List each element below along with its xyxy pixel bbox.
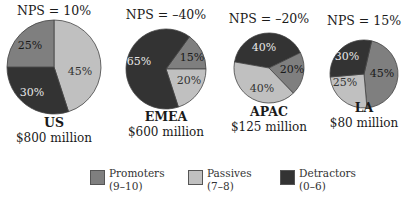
legend-range-promoters: (9–10) [109, 180, 165, 193]
legend-label-passives: Passives [207, 167, 252, 180]
nps-title: NPS = –20% [229, 11, 309, 26]
slice-label-passives: 45% [68, 65, 92, 78]
slice-label-promoters: 25% [18, 39, 42, 52]
legend-range-detractors: (0–6) [299, 180, 356, 193]
legend-range-passives: (7–8) [207, 180, 252, 193]
passives-swatch [188, 170, 203, 185]
legend-item-detractors: Detractors (0–6) [280, 167, 356, 192]
detractors-swatch [280, 170, 295, 185]
slice-label-passives: 40% [250, 82, 274, 95]
region-name: APAC [249, 104, 288, 119]
nps-title: NPS = 15% [327, 13, 401, 28]
legend-label-detractors: Detractors [299, 167, 356, 180]
region-name: LA [355, 100, 374, 115]
region-revenue: $125 million [231, 120, 307, 134]
legend-item-promoters: Promoters (9–10) [90, 167, 165, 192]
nps-title: NPS = 10% [17, 3, 91, 18]
region-name: US [44, 115, 64, 130]
slice-label-promoters: 15% [180, 51, 204, 64]
nps-title: NPS = –40% [126, 7, 206, 22]
pie-us: 25%45%30%NPS = 10%US$800 million [7, 3, 101, 145]
region-revenue: $600 million [128, 125, 204, 139]
slice-label-passives: 20% [177, 74, 201, 87]
region-revenue: $800 million [16, 131, 92, 145]
legend-item-passives: Passives (7–8) [188, 167, 252, 192]
promoters-swatch [90, 170, 105, 185]
slice-label-detractors: 40% [252, 41, 276, 54]
slice-label-detractors: 65% [127, 55, 151, 68]
pie-la: 45%25%30%NPS = 15%LA$80 million [327, 13, 401, 130]
slice-label-passives: 25% [333, 76, 357, 89]
region-revenue: $80 million [330, 116, 399, 130]
pie-apac: 20%40%40%NPS = –20%APAC$125 million [229, 11, 309, 134]
slice-label-promoters: 45% [370, 67, 394, 80]
slice-label-detractors: 30% [20, 86, 44, 99]
legend-label-promoters: Promoters [109, 167, 165, 180]
slice-label-promoters: 20% [280, 63, 304, 76]
pie-emea: 15%20%65%NPS = –40%EMEA$600 million [126, 7, 206, 139]
legend: Promoters (9–10) Passives (7–8) Detracto… [0, 167, 406, 201]
region-name: EMEA [145, 109, 188, 124]
slice-label-detractors: 30% [335, 50, 359, 63]
